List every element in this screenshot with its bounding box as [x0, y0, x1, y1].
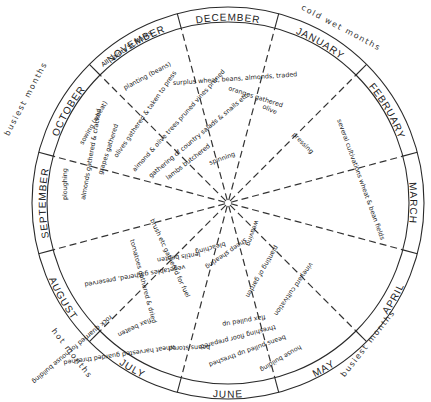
month-label-april: APRIL — [380, 281, 406, 316]
month-spoke — [230, 205, 356, 331]
activity-label: pressing — [291, 131, 316, 156]
month-spoke — [231, 156, 403, 202]
activity-label: several cultivations wheat & bean fields — [335, 118, 387, 242]
calendar-wheel: JANUARYFEBRUARYMARCHAPRILMAYJUNEJULYAUGU… — [0, 0, 431, 402]
month-label-may: MAY — [310, 358, 336, 379]
season-label: busiest months — [339, 308, 397, 379]
month-label-july: JULY — [118, 357, 147, 380]
month-label-december: DECEMBER — [195, 12, 261, 26]
month-label-june: JUNE — [213, 388, 244, 400]
month-label-september: SEPTEMBER — [37, 167, 51, 240]
activity-label: vegetables gathered, preserved — [84, 263, 186, 289]
month-divider — [39, 250, 53, 254]
month-label-august: AUGUST — [47, 275, 80, 322]
activity-label: spinning — [208, 150, 236, 167]
activity-label: vineyard cultivation — [272, 261, 315, 318]
month-label-march: MARCH — [407, 182, 419, 225]
month-spoke — [229, 28, 275, 200]
activity-label: flax beaten — [116, 316, 152, 339]
activity-label: ploughing — [61, 168, 69, 200]
wheel-svg: JANUARYFEBRUARYMARCHAPRILMAYJUNEJULYAUGU… — [0, 0, 431, 402]
month-divider — [403, 250, 417, 254]
activity-label: rock quarried for house building — [30, 313, 114, 385]
month-divider — [39, 152, 53, 156]
month-divider — [356, 64, 367, 75]
season-label: busiest months — [2, 60, 49, 137]
month-spoke — [53, 204, 225, 250]
activity-label: planting of garden — [244, 244, 280, 299]
activity-label: olives gathered & taken to press — [112, 69, 179, 159]
season-label: cold wet months — [300, 3, 383, 53]
month-divider — [403, 152, 417, 156]
activity-label: tomatoes gathered & dried — [128, 238, 158, 324]
month-divider — [275, 14, 279, 28]
activity-label: surplus wheat, beans, almonds, traded — [173, 70, 298, 87]
activity-label: flax pulled up — [222, 313, 266, 328]
month-divider — [177, 14, 181, 28]
month-divider — [177, 378, 181, 392]
month-divider — [89, 64, 100, 75]
month-divider — [275, 378, 279, 392]
